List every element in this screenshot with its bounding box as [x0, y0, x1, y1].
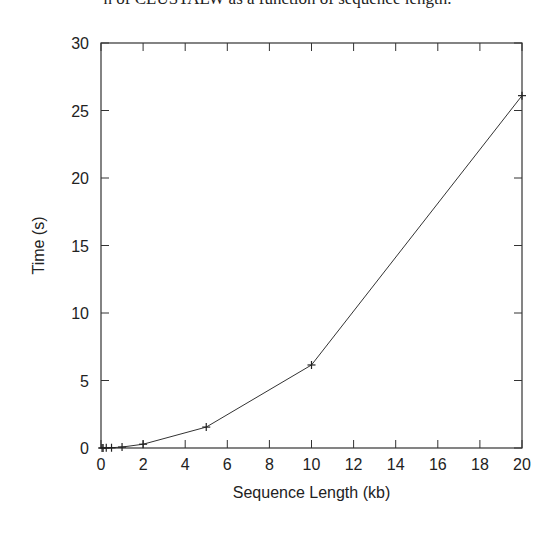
x-tick-label: 6: [223, 456, 232, 473]
x-tick-label: 12: [345, 456, 363, 473]
x-tick-label: 10: [303, 456, 321, 473]
y-tick-label: 5: [80, 373, 89, 390]
x-tick-label: 8: [265, 456, 274, 473]
x-tick-label: 2: [139, 456, 148, 473]
x-tick-label: 0: [97, 456, 106, 473]
x-axis-label: Sequence Length (kb): [233, 484, 390, 501]
x-tick-label: 16: [429, 456, 447, 473]
x-tick-label: 4: [181, 456, 190, 473]
series-line: [102, 96, 522, 448]
x-tick-label: 20: [513, 456, 531, 473]
plot-frame: [101, 43, 522, 448]
y-tick-label: 0: [80, 440, 89, 457]
line-chart: 02468101214161820051015202530Sequence Le…: [0, 0, 555, 533]
y-tick-label: 30: [71, 35, 89, 52]
x-tick-label: 18: [471, 456, 489, 473]
y-tick-label: 25: [71, 103, 89, 120]
y-axis-label: Time (s): [30, 216, 47, 274]
y-tick-label: 15: [71, 238, 89, 255]
x-tick-label: 14: [387, 456, 405, 473]
y-tick-label: 10: [71, 305, 89, 322]
y-tick-label: 20: [71, 170, 89, 187]
